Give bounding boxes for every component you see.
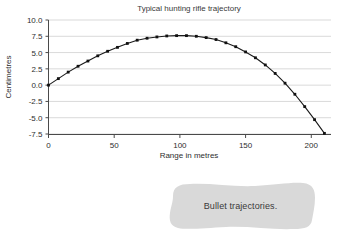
data-point-marker: [77, 65, 80, 68]
data-point-marker: [313, 118, 316, 121]
chart-title: Typical hunting rifle trajectory: [137, 4, 241, 13]
data-point-marker: [264, 64, 267, 67]
chart-figure: Typical hunting rifle trajectory 10.07.5…: [0, 0, 338, 170]
series-line-bullet-trajectory: [49, 36, 325, 134]
data-point-marker: [67, 71, 70, 74]
series-markers: [47, 34, 326, 135]
y-tick-label: 10.0: [27, 16, 43, 25]
data-point-marker: [195, 35, 198, 38]
data-point-marker: [106, 50, 109, 53]
x-axis-label: Range in metres: [160, 151, 219, 160]
y-tick-label: 0.0: [31, 81, 43, 90]
data-point-marker: [303, 105, 306, 108]
data-point-marker: [323, 132, 326, 135]
data-point-marker: [293, 93, 296, 96]
trajectory-chart: Typical hunting rifle trajectory 10.07.5…: [0, 0, 338, 170]
x-tick-label: 50: [110, 141, 119, 150]
data-point-marker: [185, 34, 188, 37]
data-point-marker: [175, 34, 178, 37]
data-point-marker: [234, 45, 237, 48]
data-point-marker: [96, 54, 99, 57]
data-point-marker: [87, 60, 90, 63]
y-tick-label: -7.5: [29, 130, 43, 139]
data-point-marker: [215, 38, 218, 41]
data-point-marker: [126, 42, 129, 45]
data-point-marker: [47, 84, 50, 87]
y-tick-label: 2.5: [31, 65, 43, 74]
data-point-marker: [57, 77, 60, 80]
data-point-marker: [205, 36, 208, 39]
x-tick-label: 150: [239, 141, 253, 150]
y-tick-label: 5.0: [31, 49, 43, 58]
data-point-marker: [244, 51, 247, 54]
y-tick-label: 7.5: [31, 32, 43, 41]
y-tick-label: -5.0: [29, 114, 43, 123]
y-tick-label: -2.5: [29, 97, 43, 106]
x-tick-label: 100: [173, 141, 187, 150]
data-point-marker: [146, 37, 149, 40]
grid-lines: [49, 20, 332, 134]
callout-text: Bullet trajectories.: [163, 180, 318, 232]
data-point-marker: [116, 46, 119, 49]
x-axis-ticks: 050100150200: [46, 134, 318, 150]
data-point-marker: [254, 56, 257, 59]
data-point-marker: [224, 41, 227, 44]
data-point-marker: [274, 72, 277, 75]
data-point-marker: [136, 39, 139, 42]
y-axis-label: Centimetres: [4, 55, 13, 98]
x-tick-label: 0: [46, 141, 51, 150]
data-point-marker: [156, 36, 159, 39]
callout-bubble: Bullet trajectories.: [163, 180, 318, 232]
data-point-marker: [284, 82, 287, 85]
data-point-marker: [165, 35, 168, 38]
x-tick-label: 200: [305, 141, 319, 150]
y-axis-ticks: 10.07.55.02.50.0-2.5-5.0-7.5: [27, 16, 49, 139]
